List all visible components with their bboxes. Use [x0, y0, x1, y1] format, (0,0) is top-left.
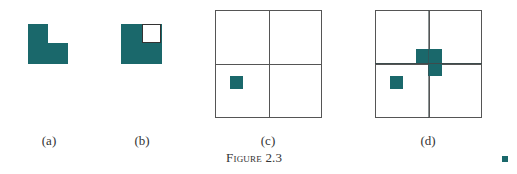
center-square-bottom-right [428, 63, 442, 76]
grid-line-overlay-v [428, 10, 429, 118]
white-cell [142, 24, 161, 43]
panel-b-label: (b) [122, 134, 162, 148]
small-square [230, 76, 243, 89]
end-marker-icon [502, 156, 508, 162]
panel-a-label: (a) [29, 134, 69, 148]
grid-divider-horizontal [216, 64, 321, 65]
center-square-top-right [428, 49, 442, 63]
panel-d-label: (d) [408, 134, 448, 148]
l-shape-bottom [28, 43, 68, 64]
figure-caption: Figure 2.3 [226, 151, 282, 165]
panel-c-label: (c) [248, 134, 288, 148]
quadrant-grid-c [215, 10, 322, 118]
l-shape-top-left [28, 24, 48, 44]
small-square [390, 76, 403, 89]
